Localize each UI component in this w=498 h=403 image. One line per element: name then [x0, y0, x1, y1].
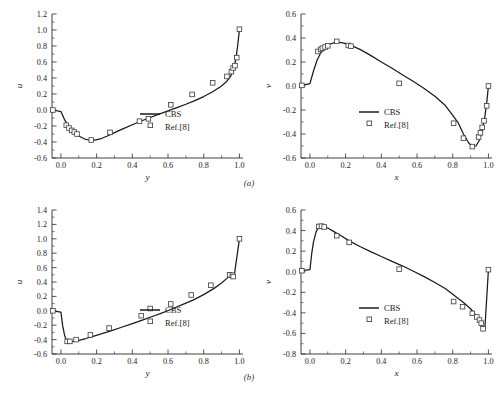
data-point-marker	[451, 121, 456, 126]
x-tick-label: 1.0	[234, 357, 244, 366]
y-tick-label: -0.4	[283, 130, 296, 139]
data-point-marker	[210, 81, 215, 86]
data-point-marker	[349, 44, 354, 49]
y-tick-label: -0.2	[283, 288, 296, 297]
y-tick-label: -0.2	[283, 106, 296, 115]
y-tick-label: 1.0	[37, 235, 47, 244]
chart-panel-bottom-left: 0.00.20.40.60.81.0-0.6-0.4-0.20.00.20.40…	[0, 198, 249, 388]
x-tick-label: 0.0	[56, 161, 66, 170]
legend: CBSRef.[8]	[359, 107, 409, 130]
series-line-cbs	[53, 239, 240, 342]
x-tick-label: 0.2	[341, 161, 351, 170]
chart-panel-top-left: 0.00.20.40.60.81.0-0.6-0.4-0.20.00.20.40…	[0, 2, 249, 192]
y-tick-label: 0.6	[37, 264, 47, 273]
data-point-marker	[209, 283, 214, 288]
y-tick-label: 0.0	[286, 82, 296, 91]
data-point-marker	[397, 267, 402, 272]
legend-marker-swatch	[148, 319, 153, 324]
x-tick-label: 0.4	[376, 357, 386, 366]
x-tick-label: 0.8	[448, 161, 458, 170]
x-tick-label: 0.0	[305, 357, 315, 366]
plot-area-top-left: 0.00.20.40.60.81.0-0.6-0.4-0.20.00.20.40…	[0, 2, 249, 192]
x-tick-label: 0.4	[376, 161, 386, 170]
y-tick-label: 0.8	[37, 249, 47, 258]
x-tick-label: 0.2	[92, 161, 102, 170]
data-point-marker	[482, 119, 487, 124]
y-tick-label: 0.4	[286, 34, 296, 43]
y-tick-label: -0.6	[283, 329, 296, 338]
series-markers-ref8	[300, 224, 491, 331]
x-tick-label: 0.8	[448, 357, 458, 366]
y-tick-label: -0.4	[34, 336, 47, 345]
legend-marker-swatch	[367, 317, 372, 322]
x-tick-label: 0.6	[412, 357, 422, 366]
axis-frame	[301, 210, 492, 354]
data-point-marker	[484, 104, 489, 109]
x-tick-label: 0.4	[127, 357, 137, 366]
y-tick-label: -0.6	[34, 350, 47, 359]
data-point-marker	[108, 130, 113, 135]
y-tick-label: 1.2	[37, 220, 47, 229]
subfigure-caption-a: (a)	[0, 178, 498, 188]
series-line-cbs	[302, 42, 489, 147]
y-tick-label: 1.2	[37, 10, 47, 19]
data-point-marker	[237, 27, 242, 32]
data-point-marker	[146, 117, 151, 122]
axis-frame	[52, 210, 243, 354]
y-tick-label: 0.0	[37, 307, 47, 316]
data-point-marker	[237, 237, 242, 242]
data-point-marker	[300, 83, 305, 88]
y-tick-label: 0.6	[37, 58, 47, 67]
x-tick-label: 0.8	[199, 357, 209, 366]
x-tick-label: 0.4	[127, 161, 137, 170]
data-point-marker	[168, 103, 173, 108]
x-tick-label: 0.8	[199, 161, 209, 170]
y-axis-label: u	[14, 279, 24, 284]
data-point-marker	[234, 55, 239, 60]
data-point-marker	[225, 74, 230, 79]
data-point-marker	[68, 339, 73, 344]
data-point-marker	[486, 84, 491, 89]
x-tick-label: 0.6	[412, 161, 422, 170]
legend: CBSRef.[8]	[140, 305, 190, 328]
y-tick-label: 0.6	[286, 10, 296, 19]
y-tick-label: 0.2	[37, 90, 47, 99]
legend-label-cbs: CBS	[384, 303, 400, 313]
legend-label-cbs: CBS	[165, 109, 181, 119]
y-tick-label: -0.6	[283, 154, 296, 163]
data-point-marker	[486, 267, 491, 272]
data-point-marker	[325, 44, 330, 49]
data-point-marker	[478, 131, 483, 136]
y-axis-label: v	[263, 83, 273, 88]
data-point-marker	[347, 240, 352, 245]
data-point-marker	[139, 313, 144, 318]
subfigure-caption-b: (b)	[0, 372, 498, 382]
series-markers-ref8	[51, 27, 242, 142]
y-tick-label: -0.2	[34, 122, 47, 131]
data-point-marker	[397, 81, 402, 86]
legend-label-cbs: CBS	[165, 305, 181, 315]
data-point-marker	[322, 225, 327, 230]
data-point-marker	[190, 92, 195, 97]
x-tick-label: 1.0	[483, 161, 493, 170]
series-markers-ref8	[51, 237, 242, 344]
data-point-marker	[75, 132, 80, 137]
x-tick-label: 0.2	[341, 357, 351, 366]
y-tick-label: 0.4	[286, 227, 296, 236]
x-tick-label: 0.2	[92, 357, 102, 366]
data-point-marker	[461, 136, 466, 141]
data-point-marker	[51, 309, 56, 314]
y-tick-label: 1.4	[37, 206, 47, 215]
plot-area-bottom-left: 0.00.20.40.60.81.0-0.6-0.4-0.20.00.20.40…	[0, 198, 249, 388]
figure-panel-grid: 0.00.20.40.60.81.0-0.6-0.4-0.20.00.20.40…	[0, 0, 498, 403]
data-point-marker	[481, 327, 486, 332]
y-tick-label: -0.4	[283, 309, 296, 318]
data-point-marker	[51, 108, 56, 113]
data-point-marker	[231, 274, 236, 279]
y-tick-label: 0.2	[286, 247, 296, 256]
plot-area-bottom-right: 0.00.20.40.60.81.0-0.8-0.6-0.4-0.20.00.2…	[249, 198, 498, 388]
x-tick-label: 0.0	[305, 161, 315, 170]
y-tick-label: 0.4	[37, 74, 47, 83]
legend-label-cbs: CBS	[384, 107, 400, 117]
data-point-marker	[89, 138, 94, 143]
